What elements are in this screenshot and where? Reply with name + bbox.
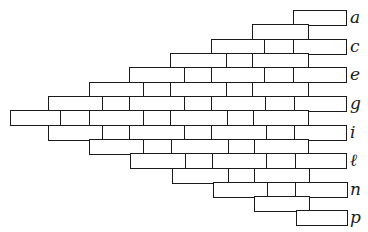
brick-diagram: acegiℓnp xyxy=(0,0,368,232)
brick xyxy=(227,110,255,126)
brick xyxy=(143,110,172,126)
brick xyxy=(296,210,348,226)
brick xyxy=(10,110,62,126)
brick xyxy=(185,153,214,169)
row-label-n: n xyxy=(350,181,361,198)
row-label-c: c xyxy=(350,38,360,55)
brick xyxy=(252,24,309,40)
brick xyxy=(89,110,145,126)
brick xyxy=(211,67,266,83)
brick xyxy=(184,67,213,83)
brick xyxy=(295,153,347,169)
brick xyxy=(264,67,295,83)
row-label-ℓ: ℓ xyxy=(350,152,357,169)
brick xyxy=(293,67,347,83)
row-label-a: a xyxy=(350,9,360,26)
brick xyxy=(129,67,186,83)
row-label-p: p xyxy=(350,209,361,226)
row-label-g: g xyxy=(350,95,361,112)
brick xyxy=(212,153,268,169)
brick xyxy=(266,153,297,169)
row-label-e: e xyxy=(350,66,360,83)
brick xyxy=(170,110,229,126)
brick xyxy=(253,110,309,126)
brick xyxy=(60,110,91,126)
row-label-i: i xyxy=(350,124,355,141)
brick xyxy=(130,153,187,169)
